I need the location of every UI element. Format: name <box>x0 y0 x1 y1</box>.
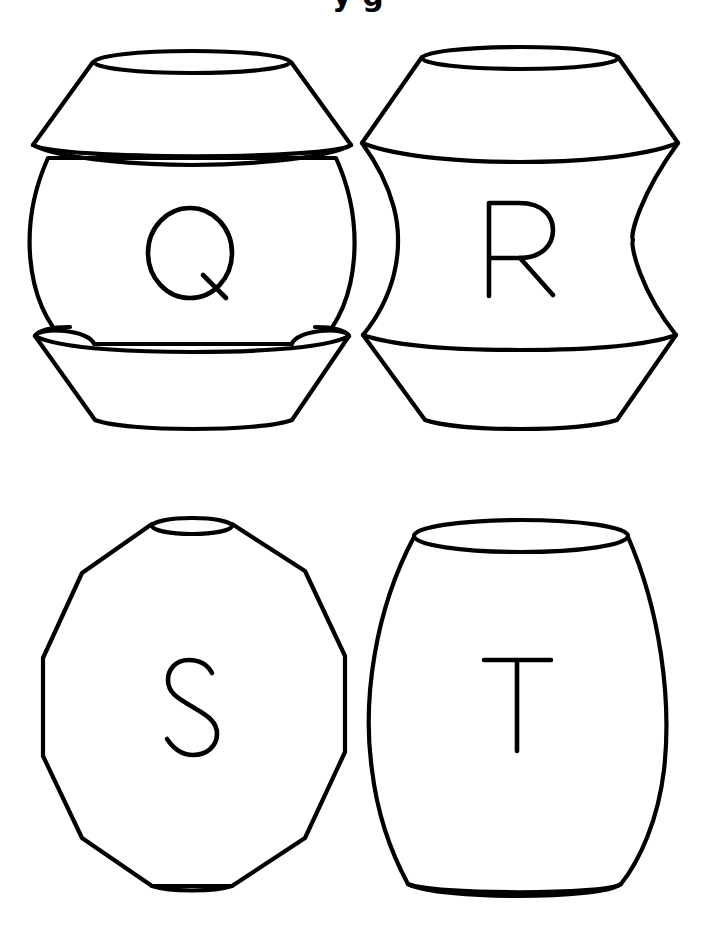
bead-s <box>43 518 345 891</box>
bead-t-top-opening <box>414 520 628 552</box>
bead-t <box>369 520 667 896</box>
bead-s-body <box>43 524 345 886</box>
bead-q-top-opening <box>94 51 290 73</box>
bead-q-upper-cap <box>33 62 351 156</box>
bead-q-body <box>30 158 355 345</box>
bead-q <box>30 51 355 429</box>
bead-r-body <box>362 57 678 429</box>
bead-s-top-opening <box>152 518 232 534</box>
bead-r-top-opening <box>422 47 618 69</box>
bead-worksheet <box>0 0 716 927</box>
bead-r <box>362 47 678 429</box>
